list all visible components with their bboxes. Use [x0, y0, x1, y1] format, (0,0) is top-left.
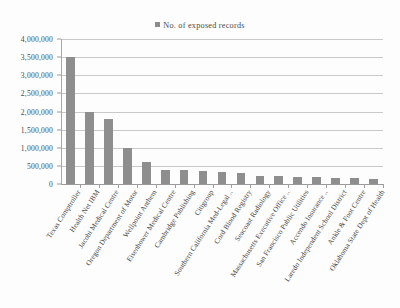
y-tick-mark — [57, 39, 61, 40]
y-tick-mark — [57, 129, 61, 130]
chart-legend: No. of exposed records — [0, 14, 400, 28]
y-tick-label: 2,000,000 — [21, 107, 53, 116]
y-tick-mark — [57, 165, 61, 166]
y-tick-mark — [57, 184, 61, 185]
y-tick-label: 1,000,000 — [21, 143, 53, 152]
bar — [66, 57, 75, 184]
y-tick-label: 500,000 — [27, 161, 53, 170]
y-tick-label: 3,000,000 — [21, 71, 53, 80]
legend-entry: No. of exposed records — [155, 21, 244, 30]
bar-chart: No. of exposed records 4,000,0003,500,00… — [0, 0, 400, 308]
legend-swatch-icon — [155, 22, 160, 27]
y-tick-label: 4,000,000 — [21, 35, 53, 44]
x-axis-labels: Texas ComptrollerHealth Net IBMJacobi Me… — [0, 188, 400, 306]
y-tick-mark — [57, 57, 61, 58]
y-tick-label: 2,500,000 — [21, 89, 53, 98]
y-tick-label: 3,500,000 — [21, 53, 53, 62]
y-tick-mark — [57, 93, 61, 94]
y-axis: 4,000,0003,500,0003,000,0002,500,0002,00… — [0, 39, 57, 184]
y-tick-mark — [57, 111, 61, 112]
y-tick-mark — [57, 75, 61, 76]
y-tick-label: 1,500,000 — [21, 125, 53, 134]
y-tick-mark — [57, 147, 61, 148]
legend-label: No. of exposed records — [163, 21, 244, 30]
